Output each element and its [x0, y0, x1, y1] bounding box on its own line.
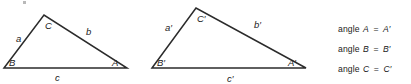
vertex-label-b: B	[9, 57, 16, 68]
side-label-a: a	[16, 33, 21, 44]
angle-right-c: C′	[382, 64, 392, 74]
angle-right-a: A′	[382, 24, 392, 34]
triangle-abc-prime: B′ C′ A′ a′ b′ c′	[152, 8, 306, 84]
angle-equations-list: angle A = A′ angle B = B′ angle C = C′	[338, 0, 411, 84]
angle-right-b: B′	[382, 44, 392, 54]
vertex-label-a-prime: A′	[287, 57, 297, 68]
angle-word-c: angle	[338, 64, 360, 74]
side-label-a-prime: a′	[165, 22, 173, 33]
angle-word-b: angle	[338, 44, 360, 54]
angle-equation-c: angle C = C′	[338, 64, 393, 74]
triangle-abc-prime-outline	[152, 8, 306, 68]
side-label-b-prime: b′	[254, 19, 262, 30]
angle-left-c: C	[362, 64, 370, 74]
angle-equation-a: angle A = A′	[338, 24, 392, 34]
triangle-abc: B C A a b c	[4, 15, 127, 83]
angle-relation-b: =	[372, 44, 379, 54]
vertex-label-b-prime: B′	[157, 57, 166, 68]
vertex-label-a: A	[111, 57, 118, 68]
angle-relation-c: =	[373, 64, 380, 74]
angle-relation-a: =	[372, 24, 379, 34]
side-label-c: c	[55, 72, 60, 83]
angle-left-a: A	[362, 24, 370, 34]
side-label-c-prime: c′	[227, 73, 235, 84]
vertex-label-c: C	[45, 20, 52, 31]
angle-word-a: angle	[338, 24, 360, 34]
side-label-b: b	[86, 26, 91, 37]
vertex-label-c-prime: C′	[197, 13, 207, 24]
angle-equation-b: angle B = B′	[338, 44, 392, 54]
triangle-abc-outline	[4, 15, 127, 68]
angle-left-b: B	[362, 44, 370, 54]
scan-artifact	[23, 1, 26, 4]
